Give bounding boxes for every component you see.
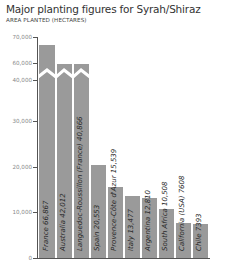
bar-label: South Africa 10,508 <box>161 181 169 251</box>
bar-chart: 70,000 60,000 40,000 30,000 20,000 10,00… <box>0 0 227 276</box>
bar-label: Italy 13,477 <box>127 209 135 251</box>
bar-label: California (USA) 7608 <box>178 176 186 251</box>
bar-label: Provence-Côte d'Azur 15,539 <box>110 149 118 251</box>
x-axis <box>35 258 210 259</box>
bar-label: Australia 42,012 <box>59 193 67 251</box>
bar-label: Chile 7393 <box>195 213 203 251</box>
bar-label: France 66,867 <box>42 200 50 251</box>
bar-label: Languedoc-Roussillon (France) 40,866 <box>76 116 84 251</box>
bar-label: Spain 20,553 <box>93 205 101 251</box>
bar-label: Argentina 12,810 <box>144 190 152 251</box>
